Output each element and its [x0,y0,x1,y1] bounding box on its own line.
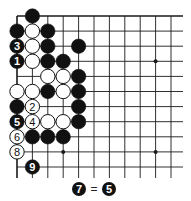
grid-lines [17,16,183,178]
stone-move-number: 2 [29,101,35,113]
black-stone [71,99,85,113]
star-point [154,150,158,154]
stone-move-number: 4 [29,116,35,128]
black-stone: 1 [10,54,24,68]
star-point [154,59,158,63]
black-stone [41,84,55,98]
star-point [61,150,65,154]
black-stone: 9 [25,160,39,174]
move-caption: 7 = 5 [72,182,116,196]
white-stone [41,69,55,83]
black-stone [41,130,55,144]
stone-move-number: 1 [14,55,20,67]
white-stone [41,115,55,129]
stone-move-number: 6 [14,131,20,143]
white-stone: 4 [25,115,39,129]
caption-stone-left: 7 [72,182,86,196]
black-stone [71,39,85,53]
white-stone [56,69,70,83]
black-stone [10,24,24,38]
black-stone [71,69,85,83]
black-stone [41,39,55,53]
white-stone [25,84,39,98]
black-stone [41,24,55,38]
white-stone [56,115,70,129]
white-stone [56,84,70,98]
stone-move-number: 3 [14,40,20,52]
go-board: 31254689 7 = 5 [0,0,191,201]
black-stone [25,130,39,144]
black-stone [25,9,39,23]
stone-move-number: 5 [14,116,20,128]
caption-stone-right: 5 [102,182,116,196]
black-stone: 3 [10,39,24,53]
caption-right-label: 5 [106,183,112,195]
black-stone [41,54,55,68]
white-stone [10,84,24,98]
black-stone: 5 [10,115,24,129]
stone-move-number: 8 [14,146,20,158]
white-stone [25,39,39,53]
caption-left-label: 7 [76,183,82,195]
white-stone [25,54,39,68]
black-stone [56,130,70,144]
white-stone [25,24,39,38]
white-stone: 8 [10,145,24,159]
black-stone [71,115,85,129]
black-stone [56,54,70,68]
stone-move-number: 9 [29,161,35,173]
black-stone [10,99,24,113]
black-stone [71,84,85,98]
white-stone: 2 [25,99,39,113]
caption-equals: = [90,182,97,196]
white-stone: 6 [10,130,24,144]
